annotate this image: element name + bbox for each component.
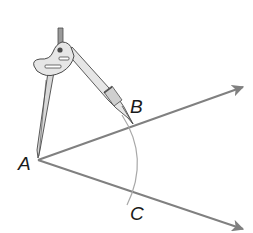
label-c: C: [130, 203, 144, 224]
label-a: A: [17, 153, 31, 174]
compass-icon: [34, 28, 133, 158]
label-b: B: [130, 96, 143, 117]
construction-diagram: A B C: [0, 0, 253, 233]
